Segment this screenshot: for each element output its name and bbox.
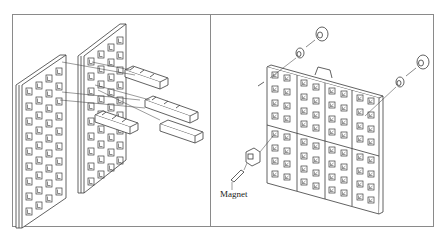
- fastener-right: [365, 55, 429, 116]
- right-grid: [267, 65, 383, 214]
- diagram-drawing: [0, 0, 445, 241]
- magnet-label: Magnet: [220, 189, 248, 199]
- edge-arrow: [258, 82, 264, 86]
- left-slab-2: [78, 24, 126, 193]
